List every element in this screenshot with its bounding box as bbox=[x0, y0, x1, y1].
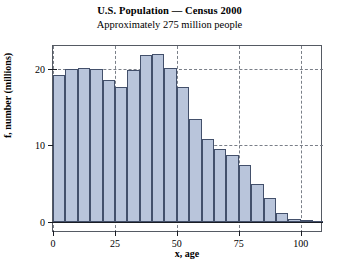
y-tick-label: 10 bbox=[35, 140, 45, 151]
histogram-bar bbox=[53, 75, 65, 222]
histogram-bar bbox=[226, 155, 238, 222]
x-tick-mark bbox=[239, 231, 240, 236]
x-tick-label: 50 bbox=[172, 238, 182, 249]
histogram-bar bbox=[189, 119, 201, 222]
x-tick-label: 25 bbox=[110, 238, 120, 249]
y-tick-mark-inner bbox=[53, 69, 57, 70]
chart-subtitle: Approximately 275 million people bbox=[0, 19, 339, 30]
histogram-bar bbox=[140, 55, 152, 222]
histogram-bar bbox=[65, 69, 77, 222]
plot-frame: 010200255075100 bbox=[52, 45, 322, 232]
x-tick-mark bbox=[301, 231, 302, 236]
histogram-bar bbox=[214, 149, 226, 222]
plot-area bbox=[53, 46, 323, 233]
histogram-bar bbox=[202, 139, 214, 222]
chart-title: U.S. Population — Census 2000 bbox=[0, 5, 339, 16]
x-tick-label: 75 bbox=[234, 238, 244, 249]
histogram-bar bbox=[164, 68, 176, 222]
histogram-bar bbox=[152, 54, 164, 222]
y-tick-label: 20 bbox=[35, 63, 45, 74]
histogram-bar bbox=[78, 68, 90, 222]
x-axis-label: x, age bbox=[52, 248, 322, 259]
histogram-bar bbox=[264, 198, 276, 222]
histogram-bar bbox=[177, 87, 189, 222]
histogram-bar bbox=[251, 184, 263, 222]
histogram-bar bbox=[90, 69, 102, 222]
x-tick-mark bbox=[53, 231, 54, 236]
histogram-figure: U.S. Population — Census 2000 Approximat… bbox=[0, 0, 339, 263]
histogram-bar bbox=[115, 87, 127, 222]
x-tick-label: 0 bbox=[51, 238, 56, 249]
x-tick-mark bbox=[115, 231, 116, 236]
axis-baseline bbox=[53, 222, 323, 223]
x-tick-mark bbox=[177, 231, 178, 236]
histogram-bar bbox=[127, 70, 139, 222]
histogram-bar bbox=[239, 165, 251, 222]
y-tick-label: 0 bbox=[40, 217, 45, 228]
x-tick-label: 100 bbox=[293, 238, 308, 249]
gridline-vertical bbox=[301, 46, 302, 233]
y-axis-label: f, number (millions) bbox=[2, 53, 13, 138]
histogram-bar bbox=[276, 213, 288, 222]
histogram-bar bbox=[103, 80, 115, 222]
